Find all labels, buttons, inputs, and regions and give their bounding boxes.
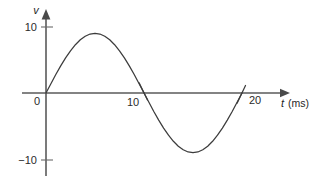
curve-crossing-tick-10 (139, 83, 147, 100)
v-axis-label: v (33, 4, 40, 16)
ytick-label-neg10: −10 (18, 154, 37, 166)
up-arrow-icon (42, 9, 51, 20)
t-axis-unit: (ms) (288, 97, 309, 109)
sine-waveform-plot: 10 −10 0 10 20 v t (ms) (0, 0, 312, 176)
right-arrow-icon (280, 89, 290, 97)
origin-label: 0 (34, 95, 40, 107)
xtick-label-20: 20 (249, 94, 261, 106)
xtick-label-10: 10 (127, 96, 139, 108)
waveform-figure: 10 −10 0 10 20 v t (ms) (0, 0, 312, 176)
t-axis-label: t (281, 97, 285, 109)
ytick-label-10: 10 (25, 21, 37, 33)
curve-crossing-tick-20 (237, 86, 245, 104)
